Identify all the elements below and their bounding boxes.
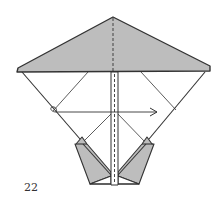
left-upper-crease (53, 72, 88, 111)
top-colored-flap (17, 17, 210, 72)
center-strip (111, 72, 118, 185)
left-lower-crease (82, 113, 112, 143)
origami-diagram (0, 0, 220, 203)
right-lower-crease (117, 113, 146, 143)
left-outer-edge (22, 72, 80, 139)
step-number: 22 (24, 181, 38, 194)
fold-arrow (51, 107, 157, 112)
right-outer-edge (149, 72, 205, 139)
right-upper-crease (141, 72, 176, 110)
